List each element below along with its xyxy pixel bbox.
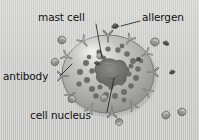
label-antibody: antibody	[3, 71, 48, 82]
cell-nucleus-shape	[95, 59, 129, 87]
label-mast-cell: mast cell	[38, 12, 85, 23]
label-cell-nucleus: cell nucleus	[30, 110, 91, 121]
label-allergen: allergen	[142, 12, 184, 23]
mast-cell-diagram: mast cell allergen antibody cell nucleus	[0, 0, 199, 140]
leader-allergen	[121, 21, 140, 26]
